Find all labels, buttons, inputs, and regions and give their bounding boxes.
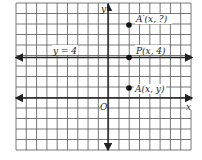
point-a-prime-label: A′(x, ?) [135,14,168,24]
point-a [126,85,132,91]
point-p-label: P(x, 4) [135,46,166,56]
y-axis-label: y [100,4,107,14]
point-p [126,55,132,61]
point-a-label: A(x, y) [134,84,165,94]
line-label: y = 4 [52,46,77,56]
origin-label: O [100,102,108,112]
grid-lines [16,3,191,150]
coordinate-plane: y x O y = 4 A′(x, ?) P(x, 4) A(x, y) [0,0,202,160]
x-axis-label: x [186,102,191,112]
point-a-prime [126,22,132,28]
